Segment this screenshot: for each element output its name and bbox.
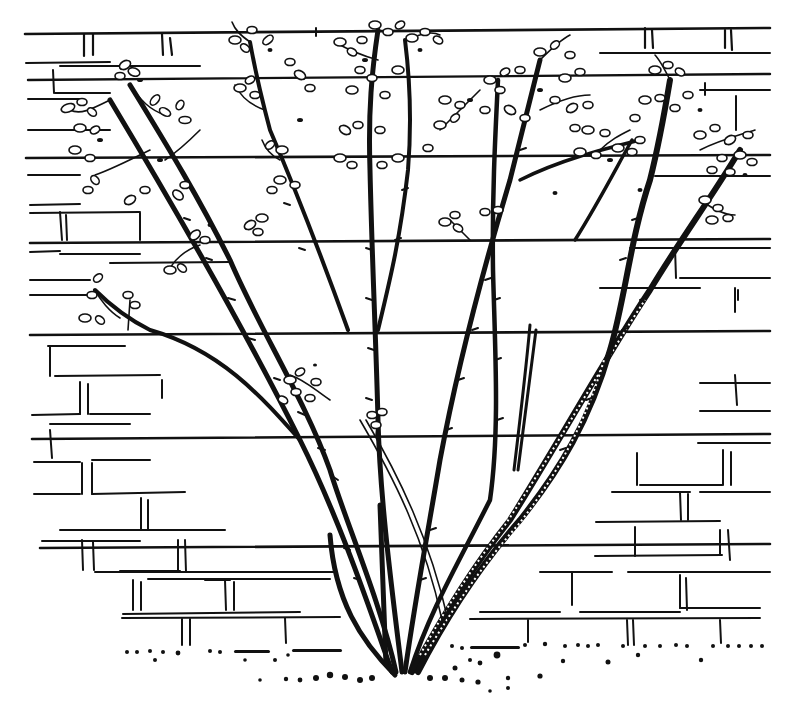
- brick-wall: [25, 28, 770, 645]
- illustration-canvas: [0, 0, 792, 705]
- shrub: [60, 19, 757, 675]
- ground-pebbles: [125, 642, 764, 693]
